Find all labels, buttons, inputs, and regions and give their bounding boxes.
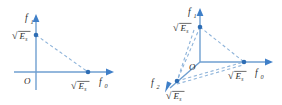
right-tick-f2-radical-sign: √ — [166, 90, 172, 101]
right-label-axis-f1-subscript: 1 — [194, 12, 197, 19]
left-label-axis-f0-base: f — [99, 77, 103, 87]
right-label-axis-f1: f 1 — [188, 7, 197, 19]
right-label-axis-f2-base: f — [151, 78, 155, 88]
right-tick-f0-radical-sign: √ — [228, 70, 234, 81]
right-tick-label-f0-sqrt-es: √ E s — [228, 70, 247, 82]
right-point-f0-axis — [242, 60, 247, 65]
right-label-axis-f2: f 2 — [151, 78, 160, 90]
right-label-axis-f0-base: f — [255, 68, 259, 78]
left-axis-f1-arrowhead — [33, 14, 40, 22]
left-label-axis-f1-base: f — [25, 13, 29, 23]
right-dashed-edge-f1-f2 — [177, 27, 200, 81]
left-tick-f1-energy-subscript: s — [25, 36, 27, 42]
right-dashed-edge-f2-f0 — [177, 62, 244, 81]
right-label-axis-f0-subscript: 0 — [261, 73, 265, 80]
left-panel-2d-diagram: f 1 f 0 O √ E s √ E s — [12, 13, 114, 92]
right-axis-f1-arrowhead — [197, 8, 204, 16]
figure-root: f 1 f 0 O √ E s √ E s — [0, 0, 282, 105]
right-dashed-guide-f1-f2 — [177, 30, 194, 81]
left-dashed-hypotenuse — [36, 35, 88, 72]
left-tick-f0-energy-subscript: s — [84, 86, 86, 92]
right-label-axis-f1-base: f — [188, 7, 192, 17]
right-tick-f1-energy-subscript: s — [186, 28, 188, 34]
right-tick-f2-energy-subscript: s — [179, 96, 181, 102]
left-point-f0-axis — [86, 70, 91, 75]
right-panel-3d-diagram: f 1 f 0 f 2 O √ E s — [151, 7, 273, 102]
right-tick-label-f2-sqrt-es: √ E s — [166, 90, 185, 102]
constellation-energy-figure: f 1 f 0 O √ E s √ E s — [0, 0, 282, 105]
left-label-axis-f0-subscript: 0 — [105, 82, 109, 89]
right-axis-f0-arrowhead — [265, 59, 273, 66]
right-point-f2-axis — [175, 79, 180, 84]
right-tick-label-f1-sqrt-es: √ E s — [173, 22, 192, 34]
right-tick-f0-energy-subscript: s — [241, 76, 243, 82]
left-axis-f0-arrowhead — [106, 69, 114, 76]
left-tick-label-f1-sqrt-es: √ E s — [12, 30, 31, 42]
left-label-axis-f0: f 0 — [99, 77, 109, 89]
left-label-origin: O — [24, 76, 31, 86]
left-label-axis-f1: f 1 — [25, 13, 34, 25]
right-point-f1-axis — [198, 25, 203, 30]
right-label-axis-f2-subscript: 2 — [157, 83, 160, 90]
left-tick-label-f0-sqrt-es: √ E s — [71, 80, 90, 92]
left-point-f1-axis — [34, 33, 39, 38]
right-dashed-edge-f1-f0 — [200, 27, 244, 62]
right-axis-f2-line — [170, 62, 200, 88]
left-label-axis-f1-subscript: 1 — [31, 18, 34, 25]
left-tick-f1-radical-sign: √ — [12, 30, 18, 41]
right-label-origin: O — [189, 62, 196, 72]
left-tick-f0-radical-sign: √ — [71, 80, 77, 91]
right-tick-f1-radical-sign: √ — [173, 22, 179, 33]
right-label-axis-f0: f 0 — [255, 68, 265, 80]
